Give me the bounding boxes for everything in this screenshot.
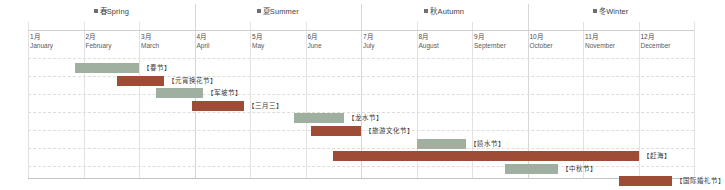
gantt-bar[interactable] xyxy=(505,164,558,174)
season-label-text: 春Spring xyxy=(100,5,129,16)
month-label-cn: 11月 xyxy=(585,33,615,42)
season-label-text: 夏Summer xyxy=(263,5,299,16)
month-tick-july: 7月July xyxy=(361,33,375,51)
month-tick-august: 8月August xyxy=(417,33,439,51)
horizontal-gridline xyxy=(28,130,694,131)
gantt-bar-label: 【元宵换花节】 xyxy=(168,76,217,86)
month-label-cn: 6月 xyxy=(308,33,322,42)
month-label-en: March xyxy=(141,42,159,51)
horizontal-gridline xyxy=(28,94,694,95)
month-label-cn: 12月 xyxy=(641,33,671,42)
gantt-bar[interactable] xyxy=(417,139,467,149)
gantt-bar-label: 【旅游文化节】 xyxy=(365,126,414,136)
gantt-bar[interactable] xyxy=(156,88,203,98)
horizontal-gridline xyxy=(28,148,694,149)
month-label-en: September xyxy=(474,42,506,51)
season-marker-icon xyxy=(94,9,98,13)
month-label-cn: 2月 xyxy=(86,33,112,42)
month-tick-december: 12月December xyxy=(639,33,671,51)
gantt-bar-label: 【嬉水节】 xyxy=(470,139,505,149)
month-label-cn: 8月 xyxy=(419,33,439,42)
month-label-cn: 7月 xyxy=(363,33,375,42)
gantt-bar[interactable] xyxy=(294,113,344,123)
month-label-cn: 1月 xyxy=(30,33,53,42)
month-label-cn: 10月 xyxy=(530,33,553,42)
season-label-autumn: 秋Autumn xyxy=(361,4,528,17)
gantt-bar[interactable] xyxy=(619,176,672,186)
month-label-en: May xyxy=(252,42,264,51)
season-marker-icon xyxy=(257,9,261,13)
month-label-en: July xyxy=(363,42,375,51)
month-tick-january: 1月January xyxy=(28,33,53,51)
gantt-bar[interactable] xyxy=(75,63,139,73)
month-tick-september: 9月September xyxy=(472,33,506,51)
season-marker-icon xyxy=(593,9,597,13)
month-label-cn: 9月 xyxy=(474,33,506,42)
gantt-bar-label: 【三月三】 xyxy=(248,101,283,111)
month-tick-february: 2月February xyxy=(84,33,112,51)
gantt-bar-label: 【龙水节】 xyxy=(348,113,383,123)
month-tick-november: 11月November xyxy=(583,33,615,51)
month-label-en: January xyxy=(30,42,53,51)
month-tick-april: 4月April xyxy=(195,33,210,51)
season-label-text: 秋Autumn xyxy=(430,5,464,16)
month-label-en: April xyxy=(197,42,210,51)
month-tick-may: 5月May xyxy=(250,33,264,51)
season-label-text: 冬Winter xyxy=(599,5,628,16)
month-label-cn: 4月 xyxy=(197,33,210,42)
month-label-en: November xyxy=(585,42,615,51)
season-label-spring: 春Spring xyxy=(28,4,195,17)
season-marker-icon xyxy=(424,9,428,13)
month-tick-october: 10月October xyxy=(528,33,553,51)
month-label-en: October xyxy=(530,42,553,51)
month-label-en: December xyxy=(641,42,671,51)
gantt-bar[interactable] xyxy=(311,126,361,136)
gantt-bar-label: 【春节】 xyxy=(143,63,171,73)
gantt-bar[interactable] xyxy=(333,151,638,161)
vertical-gridline xyxy=(694,22,695,178)
gantt-bar-label: 【国际婚礼节】 xyxy=(676,176,725,186)
month-label-cn: 3月 xyxy=(141,33,159,42)
month-label-en: February xyxy=(86,42,112,51)
top-axis-line xyxy=(28,30,694,31)
bottom-axis-line xyxy=(28,178,694,179)
horizontal-gridline xyxy=(28,58,694,59)
month-tick-march: 3月March xyxy=(139,33,159,51)
gantt-bar-label: 【赶海】 xyxy=(643,151,671,161)
month-tick-june: 6月June xyxy=(306,33,322,51)
season-label-summer: 夏Summer xyxy=(195,4,362,17)
gantt-bar-label: 【军坡节】 xyxy=(207,88,242,98)
gantt-bar[interactable] xyxy=(192,101,245,111)
month-label-en: June xyxy=(308,42,322,51)
season-label-winter: 冬Winter xyxy=(528,4,695,17)
gantt-bar-label: 【中秋节】 xyxy=(562,164,597,174)
month-label-en: August xyxy=(419,42,439,51)
gantt-bar[interactable] xyxy=(117,76,164,86)
month-label-cn: 5月 xyxy=(252,33,264,42)
